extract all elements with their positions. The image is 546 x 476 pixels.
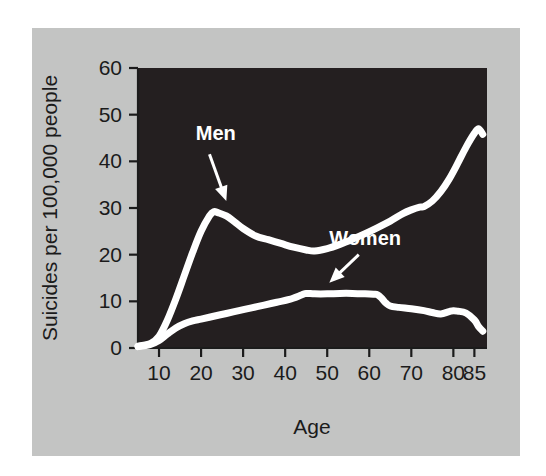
y-tick-label: 0 <box>110 336 122 359</box>
x-tick-label: 30 <box>231 361 254 384</box>
y-tick-label: 10 <box>99 289 122 312</box>
x-tick-label: 85 <box>463 361 486 384</box>
y-tick-label: 30 <box>99 196 122 219</box>
plot-area <box>138 68 487 348</box>
y-tick-label: 20 <box>99 243 122 266</box>
y-tick-label: 60 <box>99 56 122 79</box>
x-tick-label: 40 <box>273 361 296 384</box>
y-axis-title: Suicides per 100,000 people <box>38 75 61 341</box>
x-tick-label: 50 <box>316 361 339 384</box>
x-axis-title: Age <box>293 415 330 438</box>
y-tick-label: 50 <box>99 103 122 126</box>
x-tick-label: 60 <box>358 361 381 384</box>
series-label-women: Women <box>329 227 401 249</box>
figure-root: 0102030405060 102030405060708085 MenWome… <box>0 0 546 476</box>
x-tick-label: 70 <box>400 361 423 384</box>
x-tick-label: 80 <box>442 361 465 384</box>
suicide-rate-by-age-chart: 0102030405060 102030405060708085 MenWome… <box>0 0 546 476</box>
series-label-men: Men <box>196 122 236 144</box>
x-tick-label: 20 <box>189 361 212 384</box>
y-tick-labels: 0102030405060 <box>99 56 122 359</box>
y-tick-label: 40 <box>99 149 122 172</box>
x-tick-label: 10 <box>147 361 170 384</box>
x-tick-labels: 102030405060708085 <box>147 361 486 384</box>
